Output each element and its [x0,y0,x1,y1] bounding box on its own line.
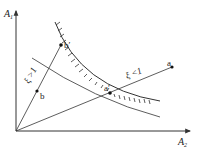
lower-curve [32,58,160,117]
annotation-xi-gt-1: ξ >1 [22,66,39,85]
annotation-xi-lt-1: ξ <1 [124,65,143,81]
ray-b [16,45,61,131]
label-b-prime: b′ [64,40,71,50]
label-b: b [40,91,45,101]
point-b-prime [59,43,63,47]
x-axis-label: A2 [177,136,187,148]
label-a: a [167,58,171,68]
efficiency-diagram: A1 A2 b′ b a′ a ξ [0,0,203,152]
frontier-hatching [56,22,150,104]
point-b [35,89,38,92]
label-a-prime: a′ [104,83,110,93]
y-axis-label: A1 [3,8,13,20]
